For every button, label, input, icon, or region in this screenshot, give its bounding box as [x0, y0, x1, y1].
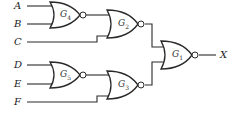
gate-label-g2: G2 — [118, 19, 129, 31]
gate-label-g1: G1 — [172, 50, 183, 62]
wire-g3-g1 — [145, 62, 165, 85]
input-label-c: C — [14, 37, 22, 47]
input-label-d: D — [14, 60, 22, 70]
input-label-e: E — [14, 79, 21, 89]
input-label-f: F — [14, 97, 21, 107]
gate-label-g4: G4 — [60, 10, 71, 22]
gate-label-g5: G5 — [60, 70, 71, 82]
input-label-a: A — [14, 1, 21, 11]
wire-f — [27, 96, 111, 102]
output-label-x: X — [220, 50, 227, 60]
logic-circuit-diagram: A B C D E F G4 G2 G5 G3 G1 X — [0, 0, 243, 115]
wire-c — [27, 36, 111, 42]
input-label-b: B — [14, 19, 21, 29]
gate-label-g3: G3 — [118, 80, 129, 92]
